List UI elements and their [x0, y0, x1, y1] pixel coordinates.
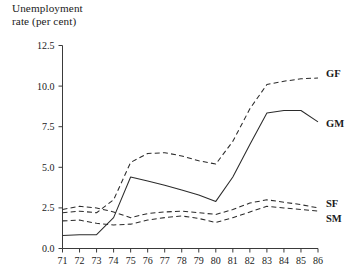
series-label-sf: SF — [326, 198, 338, 209]
series-label-gf: GF — [326, 68, 341, 79]
x-tick-label: 82 — [245, 255, 255, 266]
x-tick-label: 79 — [194, 255, 204, 266]
y-tick-label: 10.0 — [37, 81, 55, 92]
x-tick-label: 73 — [92, 255, 102, 266]
x-tick-label: 86 — [313, 255, 323, 266]
chart-series-lines — [63, 78, 319, 236]
x-tick-label: 83 — [262, 255, 272, 266]
x-tick-label: 76 — [143, 255, 153, 266]
x-tick-label: 72 — [75, 255, 85, 266]
x-tick-label: 81 — [228, 255, 238, 266]
chart-plot-area: 0.02.55.07.510.012.5 7172737475767778798… — [0, 0, 357, 276]
series-label-gm: GM — [326, 118, 344, 129]
chart-container: Unemployment rate (per cent) 0.02.55.07.… — [0, 0, 357, 276]
axis-lines — [63, 46, 319, 249]
series-label-sm: SM — [326, 213, 342, 224]
y-tick-label: 2.5 — [42, 202, 55, 213]
x-tick-label: 71 — [58, 255, 68, 266]
y-tick-label: 5.0 — [42, 162, 55, 173]
chart-axes — [59, 46, 319, 253]
series-line-sm — [63, 206, 319, 225]
x-tick-label: 84 — [279, 255, 289, 266]
x-tick-label: 75 — [126, 255, 136, 266]
series-line-gm — [63, 110, 319, 235]
x-tick-label: 77 — [160, 255, 170, 266]
y-tick-label: 7.5 — [42, 121, 55, 132]
x-tick-label: 85 — [296, 255, 306, 266]
x-tick-label: 74 — [109, 255, 119, 266]
y-tick-label: 0.0 — [42, 243, 55, 254]
chart-series-labels: GFGMSFSM — [326, 68, 344, 224]
x-tick-label: 80 — [211, 255, 221, 266]
y-tick-label: 12.5 — [37, 40, 55, 51]
x-axis-tick-labels: 71727374757677787980818283848586 — [58, 255, 324, 266]
x-tick-label: 78 — [177, 255, 187, 266]
series-line-sf — [63, 200, 319, 218]
y-axis-tick-labels: 0.02.55.07.510.012.5 — [37, 40, 55, 254]
